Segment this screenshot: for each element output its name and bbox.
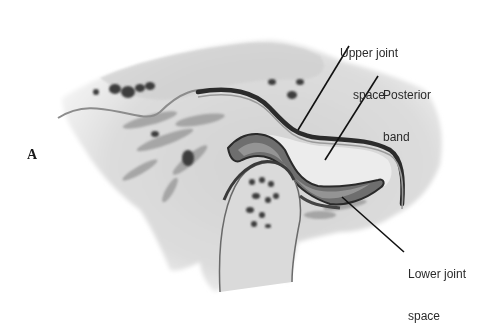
label-posterior-band: Posterior band: [383, 60, 431, 172]
panel-letter: A: [27, 147, 37, 163]
label-lower-joint-space-line1: Lower joint: [408, 267, 466, 281]
label-posterior-band-line1: Posterior: [383, 88, 431, 102]
label-lower-joint-space: Lower joint space: [408, 239, 466, 327]
label-posterior-band-line2: band: [383, 130, 431, 144]
label-lower-joint-space-line2: space: [408, 309, 466, 323]
label-upper-joint-space-line1: Upper joint: [314, 46, 424, 60]
